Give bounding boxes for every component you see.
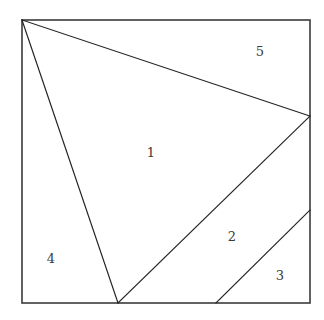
geometric-diagram-canvas: 1 2 3 4 5 (0, 0, 324, 320)
region-label-2: 2 (228, 229, 236, 244)
square-boundary (22, 20, 310, 303)
partition-figure: 1 2 3 4 5 (0, 0, 324, 320)
region-label-1: 1 (147, 145, 155, 160)
region-label-3: 3 (276, 268, 284, 283)
region-label-4: 4 (47, 251, 55, 266)
region-label-5: 5 (256, 44, 264, 59)
